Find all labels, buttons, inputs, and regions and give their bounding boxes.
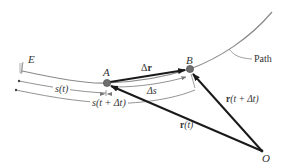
path-leader-line — [229, 49, 252, 59]
vector-symbol-r: r — [147, 62, 151, 73]
label-B: B — [186, 55, 193, 66]
r-t-argument: (t) — [184, 120, 193, 130]
label-s-t: s(t) — [53, 84, 70, 94]
label-A: A — [103, 67, 110, 78]
label-E: E — [28, 54, 35, 65]
label-s-t-dt: s(t + Δt) — [90, 98, 128, 108]
label-path: Path — [254, 54, 272, 64]
path-start-marker — [19, 62, 23, 74]
r-t-dt-argument: (t + Δt) — [230, 94, 258, 104]
label-delta-s: Δs — [146, 86, 158, 96]
label-r-t-dt: r(t + Δt) — [226, 95, 259, 105]
point-A — [103, 79, 110, 86]
vector-r-t-dt — [193, 74, 262, 151]
label-delta-r: Δr — [141, 63, 152, 73]
label-O: O — [262, 153, 270, 163]
label-r-t: r(t) — [180, 121, 193, 131]
point-B — [186, 65, 193, 72]
kinematics-diagram — [0, 0, 283, 163]
